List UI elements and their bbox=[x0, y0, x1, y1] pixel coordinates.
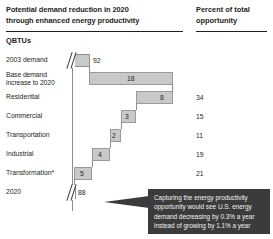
callout-line-4: instead of growing by 1.1% a year bbox=[154, 222, 250, 229]
table-row: Base demand increase to 2020 18 bbox=[0, 72, 273, 90]
row-label-commercial: Commercial bbox=[6, 112, 70, 120]
bar-value-base-demand-increase: 18 bbox=[127, 72, 135, 85]
row-label-industrial: Industrial bbox=[6, 150, 70, 158]
page-title: Potential demand reduction in 2020 throu… bbox=[6, 5, 182, 26]
bar-value-transportation: 2 bbox=[112, 129, 116, 142]
row-label-2003-demand: 2003 demand bbox=[6, 56, 70, 64]
row-label-residential: Residential bbox=[6, 93, 70, 101]
page-title-line-1: Potential demand reduction in 2020 bbox=[6, 5, 182, 16]
bar-value-2020: 88 bbox=[78, 186, 86, 199]
axis-break-icon bbox=[67, 53, 77, 68]
table-row: Transportation 2 11 bbox=[0, 129, 273, 147]
bar-value-transformation: 5 bbox=[80, 167, 84, 180]
bar-value-residential: 8 bbox=[160, 91, 164, 104]
percent-residential: 34 bbox=[196, 91, 204, 104]
bar-residential bbox=[136, 91, 173, 104]
bar-value-industrial: 4 bbox=[98, 148, 102, 161]
page-title-line-2: through enhanced energy productivity bbox=[6, 16, 182, 27]
table-row: Industrial 4 19 bbox=[0, 148, 273, 166]
table-row: Transformation* 5 21 bbox=[0, 167, 273, 185]
row-label-transformation: Transformation* bbox=[6, 169, 70, 177]
header-divider-left bbox=[6, 31, 183, 32]
percent-transformation: 21 bbox=[196, 167, 204, 180]
percent-column-title-line-2: opportunity bbox=[196, 16, 270, 27]
bar-value-2003-demand: 92 bbox=[93, 54, 101, 67]
row-label-transportation: Transportation bbox=[6, 131, 70, 139]
axis-unit-label: QBTUs bbox=[6, 36, 31, 45]
chart-figure: Potential demand reduction in 2020 throu… bbox=[0, 0, 273, 239]
callout-text: Capturing the energy productivity opport… bbox=[148, 189, 270, 230]
percent-column-title: Percent of total opportunity bbox=[196, 5, 270, 26]
bar-value-commercial: 3 bbox=[125, 110, 129, 123]
row-label-line-1: Base demand bbox=[6, 71, 70, 79]
row-label-base-demand-increase: Base demand increase to 2020 bbox=[6, 71, 70, 87]
callout-arrow-icon bbox=[104, 196, 149, 208]
callout-line-2: opportunity would see U.S. energy bbox=[154, 203, 252, 210]
row-label-2020: 2020 bbox=[6, 188, 70, 196]
percent-transportation: 11 bbox=[196, 129, 203, 142]
percent-column-title-line-1: Percent of total bbox=[196, 5, 270, 16]
callout-line-3: demand decreasing by 0.3% a year bbox=[154, 213, 255, 220]
axis-break-icon bbox=[67, 185, 77, 200]
callout-line-1: Capturing the energy productivity bbox=[154, 194, 248, 201]
callout-box: Capturing the energy productivity opport… bbox=[148, 189, 270, 234]
table-row: 2003 demand 92 bbox=[0, 54, 273, 72]
row-label-line-2: increase to 2020 bbox=[6, 79, 70, 87]
percent-commercial: 15 bbox=[196, 110, 204, 123]
percent-industrial: 19 bbox=[196, 148, 204, 161]
table-row: Commercial 3 15 bbox=[0, 110, 273, 128]
header-divider-right bbox=[196, 31, 267, 32]
